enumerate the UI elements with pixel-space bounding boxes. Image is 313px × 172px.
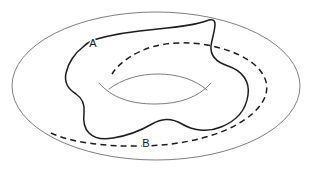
cycle-b-dashed-curve [51, 43, 267, 146]
torus-hole-front-edge-icon [109, 74, 207, 90]
curve-label-a: A [89, 37, 97, 49]
curve-label-b: B [142, 137, 149, 149]
torus-diagram-canvas: A B [0, 0, 313, 172]
torus-hole-back-edge-icon [99, 83, 211, 104]
torus-outer-boundary [12, 12, 300, 160]
torus-figure: A B [0, 0, 313, 172]
